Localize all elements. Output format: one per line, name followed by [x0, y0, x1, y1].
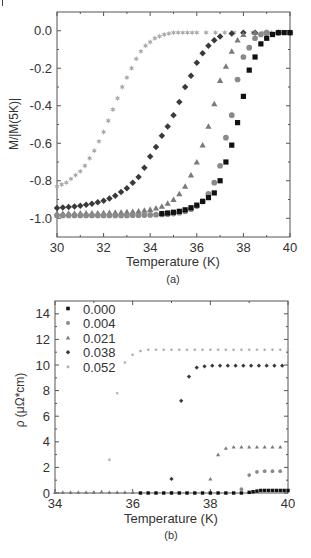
square-marker [229, 143, 234, 148]
square-marker [200, 199, 205, 204]
circle-marker [153, 212, 159, 218]
square-marker [279, 489, 282, 492]
circle-marker [136, 212, 142, 218]
circle-marker [229, 112, 235, 118]
y-tick-label: 0 [43, 486, 50, 501]
y-tick-label: 2 [43, 460, 50, 475]
y-axis-label-b: ρ (μΩ*cm) [13, 373, 27, 428]
y-tick-label: 8 [43, 383, 50, 398]
x-tick-label: 36 [125, 496, 139, 511]
circle-marker [95, 213, 101, 219]
square-marker [267, 489, 270, 492]
x-tick-label: 40 [283, 240, 297, 255]
square-marker [188, 205, 193, 210]
circle-marker [271, 469, 275, 473]
square-marker [241, 94, 246, 99]
circle-marker [54, 213, 60, 219]
x-tick-label: 38 [203, 496, 217, 511]
square-marker [194, 203, 199, 208]
square-marker [216, 491, 219, 494]
circle-marker [130, 212, 136, 218]
square-marker [171, 210, 176, 215]
x-tick-label: 30 [50, 240, 64, 255]
square-marker [159, 211, 164, 216]
circle-marker [107, 213, 113, 219]
circle-marker [142, 212, 148, 218]
x-tick-label: 32 [96, 240, 110, 255]
circle-marker [247, 473, 251, 477]
circle-marker [60, 213, 66, 219]
circle-marker [83, 213, 89, 219]
y-tick-label: -1.0 [30, 211, 52, 226]
y-tick-label: -0.4 [30, 98, 52, 113]
square-marker [252, 54, 257, 59]
circle-marker [217, 163, 223, 169]
circle-marker [89, 213, 95, 219]
panel-caption-a: (a) [166, 273, 179, 285]
legend-label: 0.021 [83, 331, 116, 346]
y-tick-label: -0.2 [30, 61, 52, 76]
legend-label: 0.038 [83, 345, 116, 360]
circle-marker [278, 469, 282, 473]
circle-marker [147, 212, 153, 218]
square-marker [258, 41, 263, 46]
square-marker [270, 32, 275, 37]
legend-label: 0.000 [83, 302, 116, 317]
circle-marker [77, 213, 83, 219]
square-marker [139, 491, 142, 494]
square-marker [201, 491, 204, 494]
square-marker [247, 68, 252, 73]
square-marker [147, 491, 150, 494]
circle-marker [258, 32, 264, 38]
square-marker [185, 491, 188, 494]
square-marker [286, 489, 289, 492]
square-marker [276, 30, 281, 35]
circle-marker [223, 135, 229, 141]
x-tick-label: 36 [190, 240, 204, 255]
square-marker [212, 190, 217, 195]
square-marker [178, 491, 181, 494]
y-tick-label: 6 [43, 409, 50, 424]
figure: 3032343638400.0-0.2-0.4-0.6-0.8-1.0 Temp… [0, 0, 311, 558]
square-marker [154, 491, 157, 494]
circle-marker [263, 469, 267, 473]
square-marker [162, 491, 165, 494]
x-tick-label: 34 [143, 240, 157, 255]
square-marker [177, 209, 182, 214]
square-marker [264, 36, 269, 41]
x-axis-label-b: Temperature (K) [124, 511, 218, 526]
legend-label: 0.052 [83, 360, 116, 375]
legend-label: 0.004 [83, 316, 116, 331]
panel-caption-b: (b) [164, 529, 177, 541]
circle-marker [264, 30, 270, 36]
square-marker [240, 491, 243, 494]
square-marker [223, 159, 228, 164]
square-marker [259, 489, 262, 492]
panel-a: 3032343638400.0-0.2-0.4-0.6-0.8-1.0 Temp… [7, 12, 297, 285]
x-axis-label-a: Temperature (K) [126, 254, 220, 269]
square-marker [263, 489, 266, 492]
square-marker [170, 491, 173, 494]
x-tick-label: 38 [236, 240, 250, 255]
y-tick-label: -0.6 [30, 136, 52, 151]
square-marker [235, 120, 240, 125]
circle-legend-icon [66, 321, 70, 325]
y-tick-label: -0.8 [30, 173, 52, 188]
square-marker [165, 210, 170, 215]
circle-marker [240, 487, 244, 491]
square-marker [209, 491, 212, 494]
square-marker [251, 490, 254, 493]
y-tick-label: 0.0 [34, 23, 52, 38]
square-marker [206, 195, 211, 200]
circle-marker [118, 213, 124, 219]
square-marker [218, 178, 223, 183]
square-legend-icon [66, 307, 70, 311]
y-tick-label: 12 [36, 332, 50, 347]
panel-b: 3436384002468101214 0.0000.0040.0210.038… [13, 301, 295, 541]
circle-marker [101, 213, 107, 219]
x-tick-label: 40 [281, 496, 295, 511]
square-marker [193, 491, 196, 494]
square-marker [224, 491, 227, 494]
circle-marker [241, 54, 247, 60]
circle-marker [66, 213, 72, 219]
